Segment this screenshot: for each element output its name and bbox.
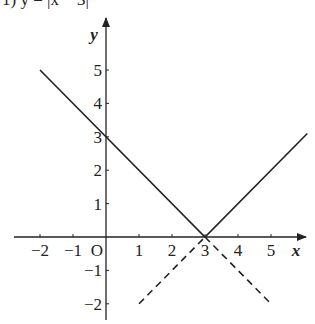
y-tick-label: 2 — [94, 161, 103, 180]
y-tick-label: 4 — [94, 94, 103, 113]
x-tick-label: −1 — [64, 241, 82, 260]
y-tick-label: −1 — [84, 261, 102, 280]
x-tick-label: 5 — [267, 241, 276, 260]
y-tick-label: −2 — [84, 295, 102, 314]
plot-area: −2−112345−2−112345Oxy — [0, 0, 315, 324]
x-tick-label: 2 — [168, 241, 177, 260]
labels: −2−112345−2−112345Oxy — [31, 25, 301, 314]
x-tick-label: 3 — [201, 241, 210, 260]
series — [40, 70, 307, 304]
y-axis-label: y — [88, 25, 98, 44]
axes — [14, 18, 306, 320]
x-tick-label: 1 — [135, 241, 144, 260]
y-tick-label: 3 — [94, 128, 103, 147]
y-tick-label: 1 — [94, 195, 103, 214]
solid-line — [40, 70, 307, 237]
y-tick-label: 5 — [94, 61, 103, 80]
x-tick-label: 4 — [234, 241, 243, 260]
x-axis-label: x — [291, 241, 301, 260]
x-tick-label: −2 — [31, 241, 49, 260]
origin-label: O — [91, 241, 103, 260]
